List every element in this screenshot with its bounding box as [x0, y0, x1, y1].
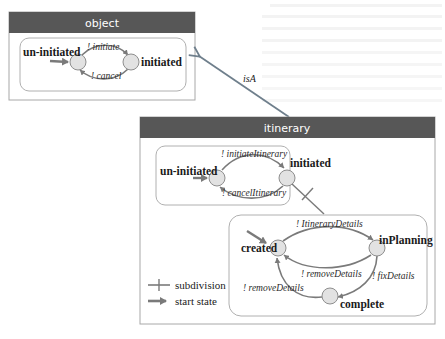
object-class-box[interactable]: object un-initiated initiated ! initiate… — [9, 12, 195, 100]
itinerary-class-box[interactable]: itinerary un-initiated initiated ! initi… — [140, 117, 435, 324]
event-label-fix-details: ! fixDetails — [372, 271, 415, 281]
legend-label-subdivision: subdivision — [175, 279, 226, 291]
legend-label-start-state: start state — [175, 295, 217, 307]
state-label-inplanning: inPlanning — [379, 234, 433, 247]
state-initiated[interactable] — [279, 170, 295, 186]
state-label-initiated: initiated — [290, 157, 331, 169]
itinerary-title: itinerary — [264, 122, 311, 135]
event-label-remove-details-left: ! removeDetails — [243, 283, 304, 293]
event-label-itinerary-details: ! ItineraryDetails — [296, 219, 363, 229]
event-label-cancel: ! cancel — [91, 71, 122, 81]
start-state-arrow — [50, 61, 68, 62]
state-diagram-canvas: object un-initiated initiated ! initiate… — [0, 0, 445, 339]
event-label-initiate: ! initiate — [87, 42, 119, 52]
event-label-initiate-itinerary: ! initiateItinerary — [221, 149, 288, 159]
state-label-un-initiated: un-initiated — [160, 165, 218, 177]
state-complete[interactable] — [322, 288, 338, 304]
state-label-complete: complete — [340, 298, 384, 311]
object-title: object — [85, 17, 120, 30]
state-initiated[interactable] — [123, 54, 139, 70]
isa-label: isA — [243, 73, 257, 84]
state-label-created: created — [241, 242, 278, 254]
event-label-remove-details: ! removeDetails — [301, 269, 362, 279]
state-label-un-initiated: un-initiated — [23, 46, 81, 58]
event-label-cancel-itinerary: ! cancelItinerary — [222, 188, 287, 198]
background-bleed-text — [262, 4, 442, 102]
state-label-initiated: initiated — [141, 56, 182, 68]
